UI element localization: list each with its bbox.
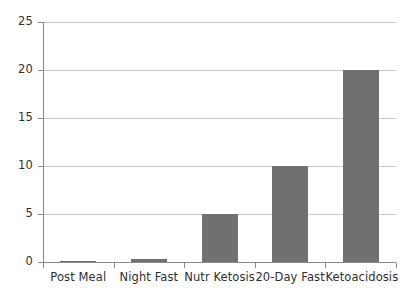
x-tick-label: 20-Day Fast [255,272,326,284]
y-tick-label: 10 [0,160,33,172]
x-tick-mark [396,263,397,268]
y-axis-line [43,22,44,263]
y-tick-label: 15 [0,112,33,124]
bar[interactable] [202,214,238,262]
y-tick-label: 25 [0,16,33,28]
y-tick-mark [38,70,43,71]
x-tick-mark [325,263,326,268]
gridline [43,22,396,23]
bar[interactable] [272,166,308,262]
x-axis-baseline [43,262,396,263]
x-tick-mark [255,263,256,268]
y-tick-mark [38,166,43,167]
plot-area [43,22,396,262]
x-tick-label: Post Meal [43,272,114,284]
bar[interactable] [343,70,379,262]
x-tick-mark [184,263,185,268]
y-tick-label: 5 [0,208,33,220]
x-tick-mark [114,263,115,268]
bar[interactable] [131,259,167,262]
y-tick-label: 0 [0,256,33,268]
bar[interactable] [60,261,96,262]
y-tick-label: 20 [0,64,33,76]
y-tick-mark [38,118,43,119]
x-tick-mark [43,263,44,268]
y-tick-mark [38,214,43,215]
x-tick-label: Ketoacidosis [325,272,396,284]
y-tick-mark [38,22,43,23]
x-tick-label: Night Fast [114,272,185,284]
bar-chart-figure: 0510152025 Post MealNight FastNutr Ketos… [0,0,413,301]
x-tick-label: Nutr Ketosis [184,272,255,284]
